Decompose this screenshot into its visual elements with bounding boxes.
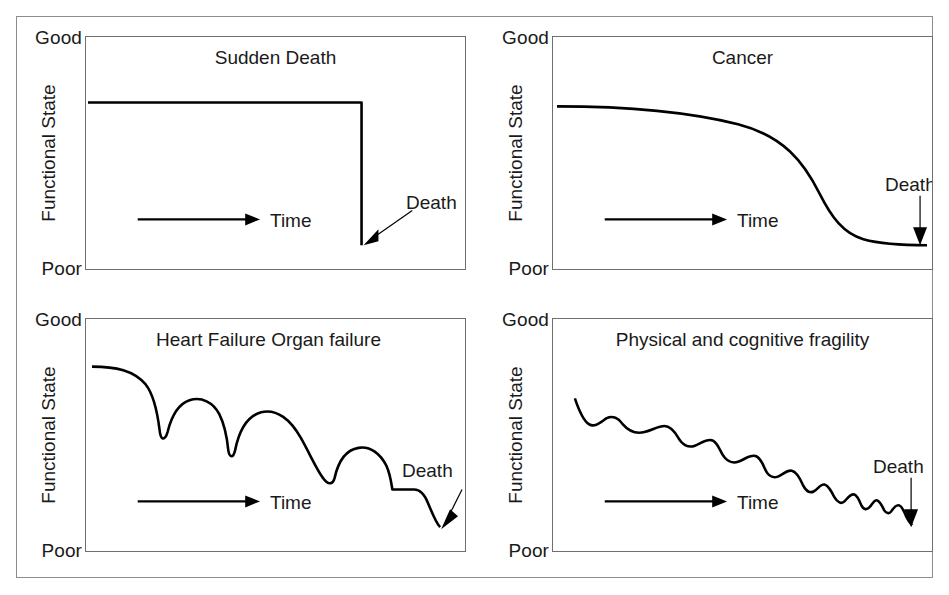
y-axis-top-label: Good [16,28,82,47]
panel-heart-failure: Good Poor Functional State Heart Failure… [16,304,466,566]
time-arrowhead [712,213,727,225]
illness-trajectories-figure: Good Poor Functional State Sudden Death … [0,0,949,595]
curve-fragility [553,319,932,551]
curve-sudden-death [86,37,465,269]
panel-cancer: Good Poor Functional State Cancer Death … [483,22,933,284]
death-label-sudden-death: Death [406,193,457,212]
plot-area-heart-failure: Heart Failure Organ failure Death Time [85,318,466,552]
y-axis-bottom-label: Poor [483,259,549,278]
y-axis-title: Functional State [506,58,526,248]
plot-area-fragility: Physical and cognitive fragility Death T… [552,318,933,552]
curve-heart-failure [86,319,465,551]
curve-cancer [553,37,932,269]
death-arrowhead [913,227,927,245]
y-axis-title: Functional State [39,340,59,530]
time-arrowhead [245,213,260,225]
death-label-fragility: Death [873,457,924,476]
death-arrowhead [441,509,458,529]
panel-sudden-death: Good Poor Functional State Sudden Death … [16,22,466,284]
y-axis-bottom-label: Poor [483,541,549,560]
time-label-sudden-death: Time [270,211,312,230]
death-label-cancer: Death [885,175,933,194]
time-label-heart-failure: Time [270,493,312,512]
y-axis-top-label: Good [483,310,549,329]
panel-fragility: Good Poor Functional State Physical and … [483,304,933,566]
plot-area-sudden-death: Sudden Death Death Time [85,36,466,270]
plot-area-cancer: Cancer Death Time [552,36,933,270]
y-axis-title: Functional State [506,340,526,530]
y-axis-top-label: Good [16,310,82,329]
time-label-cancer: Time [737,211,779,230]
y-axis-bottom-label: Poor [16,541,82,560]
time-label-fragility: Time [737,493,779,512]
time-arrowhead [712,495,727,507]
y-axis-title: Functional State [39,58,59,248]
y-axis-bottom-label: Poor [16,259,82,278]
trajectory-line [88,102,362,245]
time-arrowhead [245,495,260,507]
trajectory-line [92,367,440,528]
death-arrowhead [364,229,379,245]
y-axis-top-label: Good [483,28,549,47]
death-label-heart-failure: Death [402,461,453,480]
